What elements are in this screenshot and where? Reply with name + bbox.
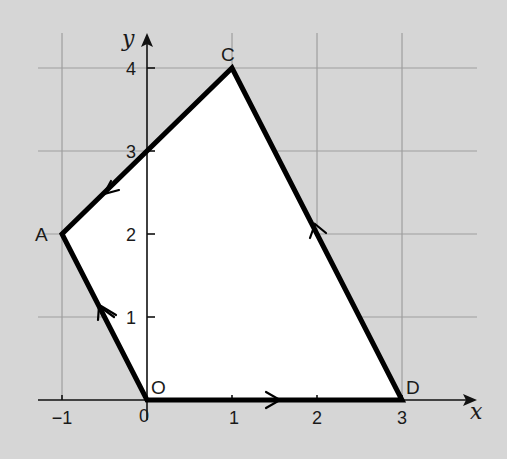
y-tick-label: 3 [126,142,136,162]
x-tick-label: 3 [397,408,407,428]
vertex-label-a: A [35,224,48,245]
vertex-label-d: D [406,377,420,398]
x-tick-label: −1 [52,408,73,428]
x-tick-label: 2 [312,408,322,428]
y-axis-label: y [121,26,135,51]
coordinate-diagram: C A O D y x −1 0 1 2 3 4 3 2 1 [0,0,507,459]
vertex-label-o: O [151,377,166,398]
y-tick-label: 4 [126,59,136,79]
vertex-label-c: C [221,44,235,65]
y-tick-label: 1 [126,308,136,328]
x-tick-label: 0 [139,406,149,426]
x-axis-label: x [470,399,483,424]
y-tick-label: 2 [126,225,136,245]
x-tick-label: 1 [229,408,239,428]
